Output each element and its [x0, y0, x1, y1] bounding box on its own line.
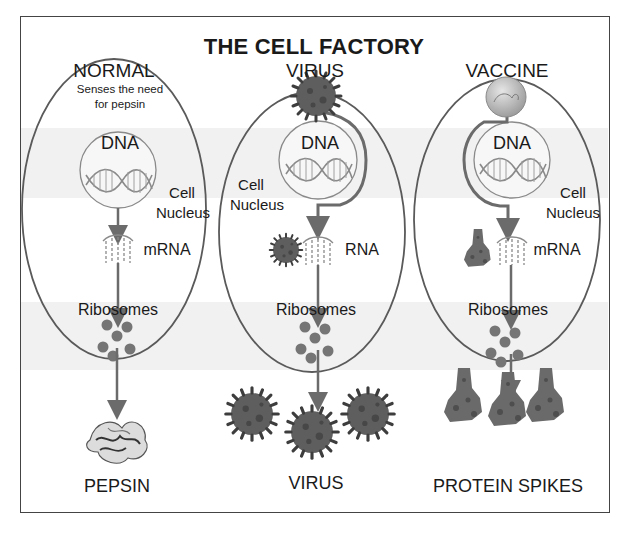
- mrna-label-normal: mRNA: [142, 241, 192, 259]
- vaccine-sphere-icon: [486, 77, 526, 117]
- output-label-protein-spikes: PROTEIN SPIKES: [428, 476, 588, 497]
- dna-label-normal: DNA: [100, 133, 140, 154]
- diagram-title: THE CELL FACTORY: [0, 34, 628, 60]
- note-line-1: Senses the need: [70, 82, 170, 97]
- rna-label-virus: RNA: [342, 241, 382, 259]
- mrna-label-vaccine: mRNA: [532, 241, 582, 259]
- cell-label-normal-2: Nucleus: [148, 203, 218, 222]
- cell-label-virus-2: Nucleus: [222, 195, 292, 214]
- cell-label-virus-1: Cell: [226, 175, 276, 194]
- note-line-2: for pepsin: [70, 97, 170, 112]
- ribosomes-label-normal: Ribosomes: [78, 301, 158, 319]
- dna-label-vaccine: DNA: [492, 133, 532, 154]
- ribosomes-label-vaccine: Ribosomes: [468, 301, 548, 319]
- dna-label-virus: DNA: [300, 133, 340, 154]
- output-label-pepsin: PEPSIN: [72, 476, 162, 497]
- ribosomes-label-virus: Ribosomes: [276, 301, 356, 319]
- cell-label-normal-1: Cell: [152, 183, 212, 202]
- heading-virus: VIRUS: [270, 60, 360, 82]
- heading-normal: NORMAL: [64, 60, 164, 82]
- output-label-virus: VIRUS: [276, 473, 356, 494]
- heading-vaccine: VACCINE: [452, 60, 562, 82]
- cell-label-vaccine-2: Nucleus: [538, 203, 608, 222]
- pepsin-protein-icon: [87, 422, 147, 463]
- cell-label-vaccine-1: Cell: [548, 183, 598, 202]
